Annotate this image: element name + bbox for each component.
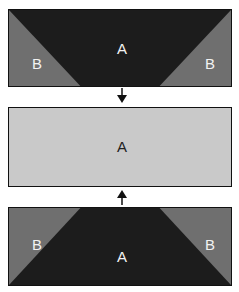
top-label-a: A (117, 41, 127, 56)
bottom-label-b-right: B (205, 237, 215, 252)
top-label-b-right: B (205, 56, 215, 71)
top-label-b-left: B (32, 56, 42, 71)
middle-panel: A (8, 107, 232, 187)
middle-label-a: A (117, 139, 127, 154)
arrow-down-icon (115, 88, 129, 104)
bottom-label-a: A (117, 249, 127, 264)
bottom-panel: A B B (8, 207, 232, 286)
bottom-panel-shapes (9, 208, 231, 285)
top-panel: A B B (8, 9, 232, 87)
bottom-label-b-left: B (32, 237, 42, 252)
arrow-up-icon (115, 189, 129, 205)
